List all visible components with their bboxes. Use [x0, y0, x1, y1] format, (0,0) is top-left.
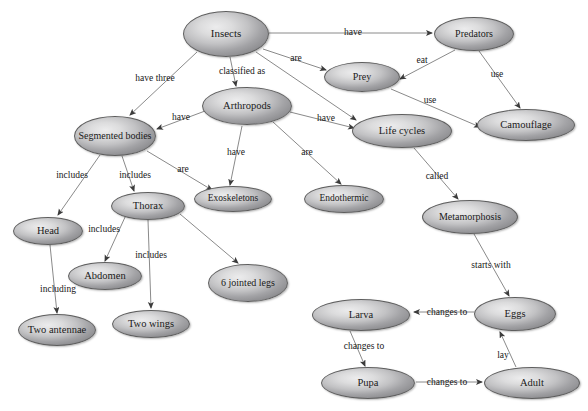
edge-label-predators-prey: eat	[416, 56, 427, 66]
node-pupa[interactable]: Pupa	[321, 367, 415, 399]
node-label-prey: Prey	[350, 72, 374, 83]
edge-thorax-to-twowings	[148, 220, 151, 308]
edge-label-arthropods-lifecycles: have	[317, 114, 335, 124]
edge-segmented-to-head	[58, 155, 100, 215]
edge-label-insects-prey: are	[290, 54, 302, 64]
node-label-segmented: Segmented bodies	[75, 131, 154, 142]
node-twowings[interactable]: Two wings	[112, 310, 190, 338]
node-label-endothermic: Endothermic	[316, 194, 371, 204]
edge-label-insects-segmented: have three	[135, 74, 174, 84]
edge-label-eggs-larva: changes to	[423, 308, 471, 318]
edge-thorax-to-abdomen	[105, 215, 126, 261]
node-label-twowings: Two wings	[125, 318, 177, 329]
node-label-arthropods: Arthropods	[220, 100, 274, 111]
node-label-thorax: Thorax	[130, 200, 166, 211]
edge-label-pupa-adult: changes to	[423, 378, 471, 388]
node-label-pupa: Pupa	[355, 377, 382, 388]
node-label-metamorphosis: Metamorphosis	[436, 212, 504, 223]
edge-label-thorax-abdomen: includes	[88, 225, 120, 235]
node-camouflage[interactable]: Camouflage	[477, 109, 575, 141]
edge-label-metamorphosis-eggs: starts with	[471, 261, 510, 271]
edge-label-head-twoantennae: including	[40, 285, 76, 295]
node-eggs[interactable]: Eggs	[474, 297, 556, 331]
edge-label-insects-predators: have	[344, 28, 362, 38]
node-endothermic[interactable]: Endothermic	[304, 185, 384, 213]
node-label-exoskeletons: Exoskeletons	[205, 194, 262, 204]
edge-label-segmented-exoskeletons: are	[177, 165, 189, 175]
node-jointedlegs[interactable]: 6 jointed legs	[208, 264, 288, 302]
node-arthropods[interactable]: Arthropods	[202, 87, 292, 125]
edge-label-thorax-twowings: includes	[135, 251, 167, 261]
edge-label-adult-eggs: lay	[497, 351, 509, 361]
node-label-adult: Adult	[517, 377, 547, 388]
node-head[interactable]: Head	[13, 217, 83, 245]
node-label-abdomen: Abdomen	[81, 270, 128, 281]
node-label-predators: Predators	[452, 29, 496, 40]
edge-label-insects-arthropods: classified as	[219, 67, 265, 77]
node-thorax[interactable]: Thorax	[111, 192, 185, 220]
node-predators[interactable]: Predators	[434, 17, 514, 51]
node-larva[interactable]: Larva	[312, 299, 410, 331]
edge-label-arthropods-endothermic: are	[301, 148, 313, 158]
node-label-jointedlegs: 6 jointed legs	[218, 278, 278, 289]
node-segmented[interactable]: Segmented bodies	[74, 116, 156, 156]
edge-label-segmented-thorax: includes	[119, 171, 151, 181]
node-label-eggs: Eggs	[502, 308, 529, 319]
node-exoskeletons[interactable]: Exoskeletons	[194, 186, 272, 212]
edge-label-arthropods-exoskeletons: have	[227, 148, 245, 158]
node-label-larva: Larva	[346, 309, 376, 320]
edge-label-segmented-head: includes	[56, 171, 88, 181]
node-lifecycles[interactable]: Life cycles	[352, 114, 452, 148]
node-twoantennae[interactable]: Two antennae	[18, 314, 96, 346]
edge-label-predators-camouflage: use	[491, 70, 504, 80]
node-label-camouflage: Camouflage	[497, 119, 554, 130]
edge-head-to-twoantennae	[50, 245, 57, 313]
node-label-twoantennae: Two antennae	[25, 324, 89, 335]
node-label-insects: Insects	[208, 28, 245, 40]
node-adult[interactable]: Adult	[484, 367, 580, 399]
node-metamorphosis[interactable]: Metamorphosis	[422, 200, 518, 234]
edge-thorax-to-jointedlegs	[180, 214, 238, 263]
edge-label-prey-camouflage: use	[424, 96, 437, 106]
node-label-lifecycles: Life cycles	[376, 125, 428, 136]
edge-label-lifecycles-metamorphosis: called	[426, 172, 449, 182]
node-insects[interactable]: Insects	[183, 11, 269, 57]
node-label-head: Head	[34, 225, 62, 236]
concept-map-canvas: havearehave threeclassified aseatuseuseh…	[0, 0, 588, 411]
node-prey[interactable]: Prey	[324, 62, 400, 92]
node-abdomen[interactable]: Abdomen	[68, 262, 142, 290]
edge-label-arthropods-segmented: have	[172, 113, 190, 123]
edge-label-larva-pupa: changes to	[344, 342, 384, 352]
